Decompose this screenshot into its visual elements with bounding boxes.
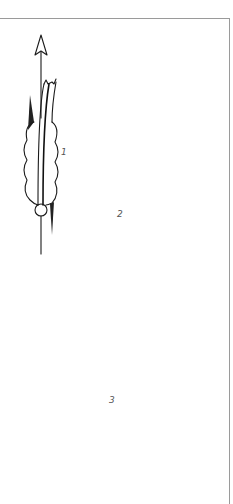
fin-bottom — [50, 202, 54, 235]
shaft-right — [52, 82, 56, 122]
panel-label-1: 1 — [61, 148, 67, 157]
shaft-center — [43, 84, 49, 205]
panel-label-3: 3 — [109, 396, 115, 405]
bulb — [35, 204, 47, 216]
panel-label-2: 2 — [117, 210, 123, 219]
figure-1 — [24, 35, 58, 254]
diagram-canvas — [0, 0, 233, 504]
fin-top — [28, 95, 34, 130]
head-notch — [44, 79, 56, 84]
body-outline-left — [24, 122, 38, 205]
body-outline-right — [46, 122, 58, 205]
